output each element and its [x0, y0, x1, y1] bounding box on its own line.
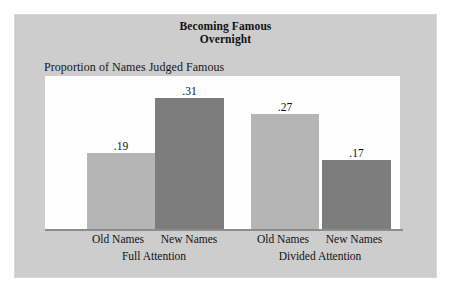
chart-title: Becoming Famous Overnight — [14, 20, 437, 45]
figure-panel: Becoming Famous Overnight Proportion of … — [14, 14, 437, 278]
tick-label-divided-attention-new-names: New Names — [318, 233, 390, 245]
chart-title-line-1: Becoming Famous — [14, 20, 437, 33]
tick-label-full-attention-new-names: New Names — [153, 233, 225, 245]
group-label-divided-attention: Divided Attention — [264, 250, 376, 262]
x-axis-baseline — [45, 229, 403, 231]
bar-value-full-attention-new-names: .31 — [155, 85, 224, 97]
tick-label-divided-attention-old-names: Old Names — [247, 233, 319, 245]
group-label-full-attention: Full Attention — [106, 250, 202, 262]
bar-value-divided-attention-old-names: .27 — [251, 101, 319, 113]
tick-label-full-attention-old-names: Old Names — [82, 233, 154, 245]
bar-full-attention-new-names — [155, 98, 224, 229]
bar-divided-attention-new-names — [322, 160, 391, 229]
y-axis-label: Proportion of Names Judged Famous — [44, 60, 224, 75]
chart-title-line-2: Overnight — [14, 33, 437, 46]
bar-full-attention-old-names — [87, 153, 155, 229]
bar-divided-attention-old-names — [251, 114, 319, 229]
plot-area: .19 .31 .27 .17 — [45, 76, 400, 229]
bar-value-divided-attention-new-names: .17 — [322, 147, 391, 159]
bar-value-full-attention-old-names: .19 — [87, 140, 155, 152]
